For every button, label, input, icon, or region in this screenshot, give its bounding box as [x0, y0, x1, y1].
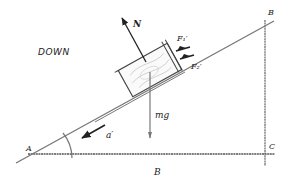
f2-label: F₂′ [190, 62, 202, 71]
base-label: B [153, 167, 161, 177]
vertex-b-top-label: B [267, 8, 274, 17]
weight-label: mg [155, 110, 170, 120]
vertex-c-label: C [269, 142, 275, 151]
vertex-a-label: A [25, 144, 32, 153]
acceleration-arrow [82, 125, 105, 138]
inclined-plane-diagram: DOWN N mg F₁′ F₂′ A B C B a′ [0, 0, 295, 189]
f1-label: F₁′ [176, 34, 188, 43]
normal-force-label: N [132, 19, 142, 29]
direction-label: DOWN [38, 47, 70, 57]
incline-line [16, 21, 274, 163]
acceleration-label: a′ [106, 130, 113, 140]
